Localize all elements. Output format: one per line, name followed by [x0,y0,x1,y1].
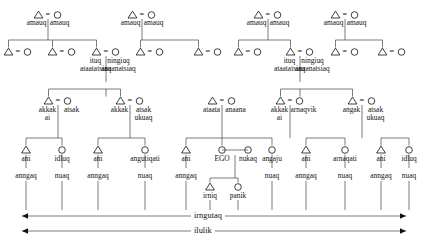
range-arrowhead-0-0 [22,213,28,219]
gen3-female-label-0: atsak [50,106,94,114]
gen2-couple-7-female-symbol [351,49,358,56]
marriage-equals-sign: = [59,48,64,56]
gen3-female-label-3: arnaqvik [282,106,326,114]
gen4-node-symbol-0 [22,146,31,153]
gen2-couple-7-male-symbol [331,48,340,55]
marriage-equals-sign: = [389,48,394,56]
gen1-female-label-2: amauq [263,19,297,27]
gen4-label-3: angutiqati [122,155,168,163]
marriage-equals-sign: = [205,48,210,56]
gen4-label-4: ani [169,155,203,163]
gen4-label-8: ani [289,155,323,163]
gen2-couple-8-female-symbol [398,49,405,56]
gen5-label-4: anngaq [166,172,206,180]
marriage-equals-sign: = [127,97,132,105]
gen4-label-2: ani [81,155,115,163]
gen1-female-label-3: amauq [340,19,374,27]
range-arrowhead-0-1 [400,213,406,219]
gen5-label-9: nuaq [389,172,427,180]
marriage-equals-sign: = [359,97,364,105]
gen1-couple-3-male-symbol [331,11,340,18]
gen1-couple-1-male-symbol [128,11,137,18]
ego-child-symbol-1 [235,184,242,191]
gen2-couple-8-male-symbol [378,48,387,55]
marriage-equals-sign: = [15,48,20,56]
gen3-male-label2-3: ai [261,114,299,122]
gen4-node-symbol-11 [406,147,413,154]
marriage-equals-sign: = [245,48,250,56]
gen2-couple-3-female-symbol [156,49,163,56]
gen2-female-label2-6: anaanatsiaq [289,65,337,73]
gen2-couple-1-male-symbol [48,48,57,55]
gen3-couple-3-female-symbol [296,98,303,105]
gen2-couple-5-male-symbol [234,48,243,55]
gen1-female-label-1: amauq [137,19,171,27]
gen3-couple-2-female-symbol [228,98,235,105]
gen3-couple-4-male-symbol [348,97,357,104]
gen5-label-7: nuaq [325,172,365,180]
gen2-couple-5-female-symbol [254,49,261,56]
gen3-couple-1-female-symbol [136,98,143,105]
range-arrow-label-ilulik: ilulik [191,226,215,235]
marriage-equals-sign: = [297,48,302,56]
gen3-couple-0-female-symbol [64,98,71,105]
gen2-couple-2-male-symbol [92,48,101,55]
gen5-label-0: anngaq [6,172,46,180]
diagram-lines [0,0,427,245]
gen3-couple-2-male-symbol [208,97,217,104]
gen2-couple-4-male-symbol [194,48,203,55]
gen2-couple-0-female-symbol [24,49,31,56]
gen5-label-1: nuaq [42,172,82,180]
gen4-node-symbol-4 [182,146,191,153]
gen2-couple-2-female-symbol [112,49,119,56]
gen4-node-symbol-2 [94,146,103,153]
marriage-equals-sign: = [287,97,292,105]
gen2-female-label2-2: anaanatsiaq [95,65,143,73]
gen3-male-label2-0: ai [29,114,67,122]
marriage-equals-sign: = [147,48,152,56]
marriage-equals-sign: = [103,48,108,56]
gen2-couple-6-male-symbol [286,48,295,55]
gen5-label-6: anngaq [286,172,326,180]
gen3-female-label2-1: ukuaq [122,114,166,122]
gen4-node-symbol-3 [142,147,149,154]
gen3-couple-4-female-symbol [368,98,375,105]
gen2-couple-4-female-symbol [214,49,221,56]
gen3-couple-0-male-symbol [44,97,53,104]
gen4-node-symbol-8 [302,146,311,153]
gen3-female-label-2: anaana [214,106,258,114]
gen4-label-1: idluq [45,155,79,163]
gen1-couple-2-male-symbol [254,11,263,18]
gen3-couple-3-male-symbol [276,97,285,104]
gen3-couple-1-male-symbol [116,97,125,104]
gen1-female-label-0: amauq [43,19,77,27]
marriage-equals-sign: = [219,97,224,105]
gen4-label-11: idluq [392,155,426,163]
range-arrow-label-irngutaq: irngutaq [191,211,225,220]
gen1-couple-0-male-symbol [34,11,43,18]
ego-child-symbol-0 [206,183,215,190]
gen4-node-symbol-10 [377,146,386,153]
gen4-label-9: arnaqati [322,155,368,163]
marriage-equals-sign: = [342,48,347,56]
gen5-label-2: anngaq [78,172,118,180]
range-arrowhead-1-0 [22,228,28,234]
range-arrowhead-1-1 [400,228,406,234]
gen4-node-symbol-9 [342,147,349,154]
gen3-female-label2-4: ukuaq [354,114,398,122]
gen4-label-7: angaju [255,155,289,163]
gen2-couple-6-female-symbol [306,49,313,56]
gen2-couple-0-male-symbol [4,48,13,55]
gen5-label-3: nuaq [125,172,165,180]
gen4-label-0: ani [9,155,43,163]
ego-child-label-1: panik [221,192,255,200]
kinship-diagram: =amauqamauq=amauqamauq=amauqamauq=amauqa… [0,0,427,245]
gen4-node-symbol-7 [269,147,276,154]
gen2-couple-3-male-symbol [136,48,145,55]
marriage-equals-sign: = [55,97,60,105]
gen4-node-symbol-1 [59,147,66,154]
gen2-couple-1-female-symbol [68,49,75,56]
